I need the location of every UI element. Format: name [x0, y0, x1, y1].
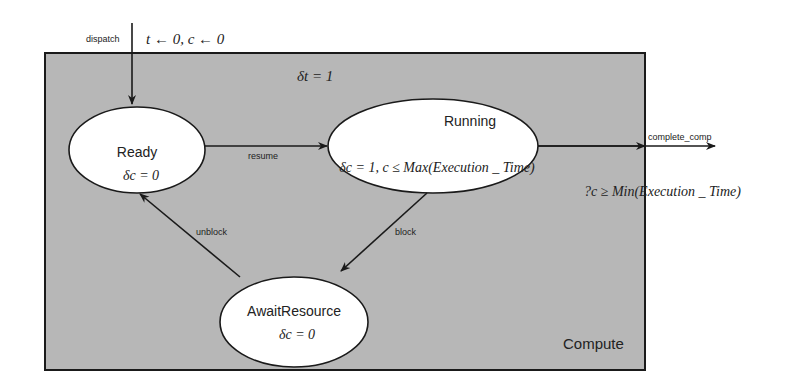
compute-label: Compute	[563, 335, 624, 352]
resume-label: resume	[248, 151, 278, 161]
complete-guard: ?c ≥ Min(Execution _ Time)	[584, 184, 741, 200]
state-ready-rate: δc = 0	[123, 168, 159, 183]
state-running[interactable]	[328, 99, 538, 193]
state-await-name: AwaitResource	[247, 303, 341, 319]
block-label: block	[395, 227, 417, 237]
dispatch-action: t ← 0, c ← 0	[146, 31, 225, 47]
state-diagram: dispatch t ← 0, c ← 0 δt = 1 Ready δc = …	[0, 0, 808, 387]
delta-t-annotation: δt = 1	[297, 68, 333, 84]
unblock-label: unblock	[196, 227, 228, 237]
state-running-rate: δc = 1, c ≤ Max(Execution _ Time)	[339, 160, 535, 176]
complete-label: complete_comp	[648, 132, 712, 142]
state-running-name: Running	[444, 113, 496, 129]
state-await-resource[interactable]	[220, 277, 368, 367]
dispatch-label: dispatch	[86, 34, 120, 44]
state-await-rate: δc = 0	[279, 327, 315, 342]
state-ready-name: Ready	[117, 144, 157, 160]
